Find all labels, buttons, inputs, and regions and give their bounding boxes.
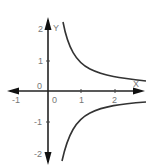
y-tick-label: 2: [38, 24, 43, 34]
y-axis-arrow-down-icon: [45, 152, 52, 165]
hyperbola-chart: -1 0 1 2 0 2 1 -1 -2 Y X: [0, 0, 156, 168]
x-tick-label: -1: [12, 95, 20, 105]
y-tick-label: -1: [34, 117, 42, 127]
x-tick-label: 1: [79, 95, 84, 105]
x-tick-label: 0: [52, 95, 57, 105]
y-tick-label: 1: [38, 56, 43, 66]
y-axis-arrow-up-icon: [45, 17, 52, 30]
y-axis-label: Y: [53, 23, 59, 33]
curve-lower-branch: [62, 102, 146, 161]
x-tick-label: 2: [112, 95, 117, 105]
y-tick-label: -2: [34, 149, 42, 159]
curve-upper-branch: [63, 22, 146, 81]
x-axis-arrow-left-icon: [7, 88, 19, 95]
origin-label: 0: [37, 81, 42, 91]
